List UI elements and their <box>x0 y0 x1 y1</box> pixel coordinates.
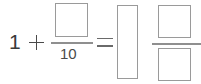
equals-bottom-stroke <box>97 45 113 47</box>
result-fraction-denominator-input-box[interactable] <box>158 48 191 81</box>
left-fraction-denominator: 10 <box>60 46 77 61</box>
result-whole-number-input-box[interactable] <box>117 5 138 79</box>
equals-sign-icon <box>97 37 113 48</box>
whole-number-one: 1 <box>9 31 21 52</box>
result-fraction-bar <box>152 43 201 45</box>
equals-top-stroke <box>97 38 113 40</box>
plus-vertical-stroke <box>36 35 38 50</box>
left-fraction-bar <box>51 42 93 44</box>
result-fraction-numerator-input-box[interactable] <box>158 5 191 38</box>
left-fraction-numerator-input-box[interactable] <box>55 3 88 37</box>
math-expression-worksheet: 1 10 <box>0 0 201 84</box>
plus-operator-icon <box>29 35 44 50</box>
